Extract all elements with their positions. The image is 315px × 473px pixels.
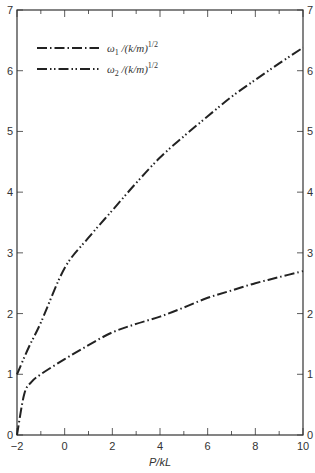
data-series	[17, 48, 303, 435]
x-axis-label: P/kL	[149, 456, 171, 468]
y-right-tick-label: 5	[307, 125, 313, 137]
y-left-tick-label: 2	[7, 308, 13, 320]
y-right-tick-label: 2	[307, 308, 313, 320]
y-right-tick-label: 3	[307, 247, 313, 259]
y-left-tick-label: 7	[7, 4, 13, 16]
y-left-tick-label: 3	[7, 247, 13, 259]
y-left-tick-label: 5	[7, 125, 13, 137]
plot-border	[17, 10, 303, 435]
x-tick-label: −2	[11, 440, 24, 452]
legend-label-2: ω2 /(k/m)1/2	[107, 61, 158, 78]
x-tick-label: 6	[205, 440, 211, 452]
y-left-tick-label: 6	[7, 65, 13, 77]
x-tick-label: 4	[157, 440, 163, 452]
x-tick-label: 2	[109, 440, 115, 452]
chart: −202468100123456701234567 ω1 /(k/m)1/2ω2…	[0, 0, 315, 473]
y-right-tick-label: 7	[307, 4, 313, 16]
y-left-tick-label: 1	[7, 368, 13, 380]
y-left-tick-label: 0	[7, 429, 13, 441]
x-tick-label: 8	[252, 440, 258, 452]
series-line-1	[17, 271, 303, 435]
y-left-tick-label: 4	[7, 186, 13, 198]
series-line-2	[17, 48, 303, 375]
legend: ω1 /(k/m)1/2ω2 /(k/m)1/2	[37, 40, 158, 78]
y-right-tick-label: 0	[307, 429, 313, 441]
plot-frame	[17, 10, 303, 435]
legend-label-1: ω1 /(k/m)1/2	[107, 40, 158, 57]
x-tick-label: 0	[62, 440, 68, 452]
x-tick-label: 10	[297, 440, 309, 452]
y-right-tick-label: 6	[307, 65, 313, 77]
y-right-tick-label: 4	[307, 186, 313, 198]
y-right-tick-label: 1	[307, 368, 313, 380]
